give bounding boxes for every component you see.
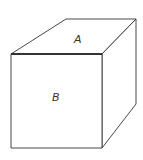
cube-diagram: A B xyxy=(0,0,143,160)
face-label-a: A xyxy=(73,33,82,46)
face-label-b: B xyxy=(52,91,60,104)
